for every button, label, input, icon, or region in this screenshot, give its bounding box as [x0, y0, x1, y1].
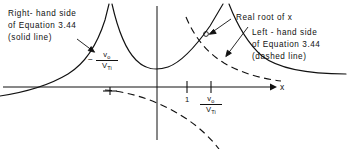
leader-lhs-arrowhead [226, 50, 232, 56]
pos-frac-num-sub: o [211, 98, 214, 104]
neg-frac-denominator: VTi [96, 61, 118, 70]
neg-frac-num-sub: o [107, 54, 110, 60]
annotation-lhs-line-3: (dashed line) [252, 51, 320, 63]
annotation-lhs-line-1: Left - hand side [252, 27, 320, 39]
leader-lhs-line [227, 27, 248, 55]
neg-frac-den-sub: Ti [107, 65, 112, 71]
x-axis-arrowhead [270, 83, 277, 90]
x-axis-group [3, 83, 277, 90]
negative-sign-v0-vti: − [88, 54, 93, 64]
x-axis-label: x [280, 82, 284, 92]
leader-real-root [204, 19, 231, 36]
annotation-rhs-line-1: Right- hand side [8, 8, 76, 20]
annotation-real-root: Real root of x [236, 12, 292, 23]
annotation-lhs-line-2: of Equation 3.44 [252, 39, 320, 51]
neg-frac-numerator: vo [96, 50, 118, 59]
axis-tick-label-one: 1 [185, 95, 189, 104]
annotation-right-hand-side: Right- hand side of Equation 3.44 (solid… [8, 8, 76, 45]
pos-frac-numerator: vo [200, 94, 222, 103]
pos-frac-den-sub: Ti [211, 109, 216, 115]
leader-lhs [226, 27, 248, 57]
axis-tick-label-neg-v0-over-vti: vo VTi [96, 50, 118, 70]
figure-container: Right- hand side of Equation 3.44 (solid… [0, 0, 356, 149]
axis-tick-label-v0-over-vti: vo VTi [200, 94, 222, 114]
pos-frac-denominator: VTi [200, 105, 222, 114]
leader-rhs [77, 39, 95, 52]
annotation-rhs-line-3: (solid line) [8, 32, 76, 44]
annotation-left-hand-side: Left - hand side of Equation 3.44 (dashe… [252, 27, 320, 64]
annotation-rhs-line-2: of Equation 3.44 [8, 20, 76, 32]
